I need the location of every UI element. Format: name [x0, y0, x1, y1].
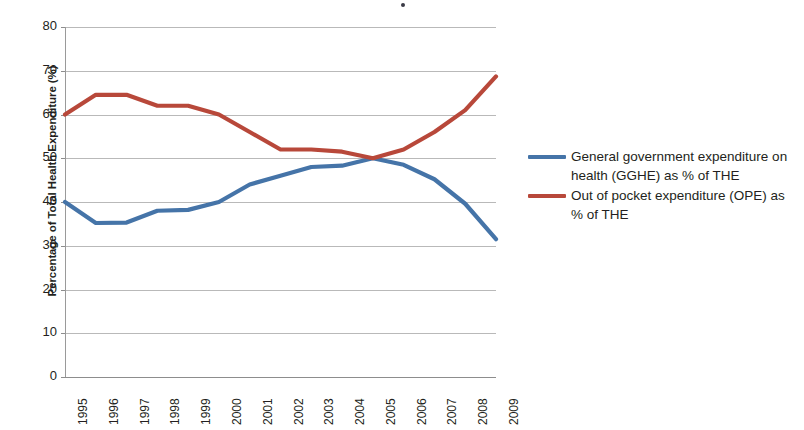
y-tick-label-40: 40 — [17, 193, 57, 208]
y-tick-label-0: 0 — [17, 368, 57, 383]
series-line-ope — [65, 76, 496, 158]
y-axis-tick-labels: 80706050403020100 — [13, 27, 57, 377]
legend-swatch-ope — [528, 194, 566, 198]
y-tick-label-20: 20 — [17, 281, 57, 296]
x-axis-tick-labels: 1995199619971998199920002001200220032004… — [65, 381, 496, 429]
legend-label-ope: Out of pocket expenditure (OPE) as % of … — [571, 187, 798, 224]
x-tick-label-1999: 1999 — [199, 398, 213, 425]
scan-artifact-dot — [401, 3, 405, 7]
y-tick-label-50: 50 — [17, 149, 57, 164]
legend-item-ope[interactable]: Out of pocket expenditure (OPE) as % of … — [528, 187, 798, 224]
x-tick-label-1998: 1998 — [168, 398, 182, 425]
x-tick-label-2007: 2007 — [445, 398, 459, 425]
x-tick-label-2001: 2001 — [261, 398, 275, 425]
x-tick-label-1996: 1996 — [107, 398, 121, 425]
y-tick-label-80: 80 — [17, 18, 57, 33]
legend-swatch-gghe — [528, 155, 566, 159]
x-tick-label-2009: 2009 — [507, 398, 521, 425]
chart-legend: General government expenditure on health… — [528, 148, 798, 226]
y-tick-label-30: 30 — [17, 237, 57, 252]
plot-area — [65, 27, 496, 377]
x-tick-label-2003: 2003 — [322, 398, 336, 425]
y-tick-label-70: 70 — [17, 62, 57, 77]
x-tick-label-2008: 2008 — [476, 398, 490, 425]
chart-figure: Percentage of Total Health Expenditure (… — [0, 0, 804, 430]
x-tick-label-2004: 2004 — [353, 398, 367, 425]
x-tick-label-2005: 2005 — [384, 398, 398, 425]
x-tick-label-1995: 1995 — [76, 398, 90, 425]
legend-item-gghe[interactable]: General government expenditure on health… — [528, 148, 798, 185]
x-tick-label-1997: 1997 — [138, 398, 152, 425]
x-axis-line — [65, 377, 496, 378]
x-tick-label-2002: 2002 — [292, 398, 306, 425]
series-line-gghe — [65, 158, 496, 239]
y-tick-label-60: 60 — [17, 106, 57, 121]
x-tick-label-2006: 2006 — [415, 398, 429, 425]
x-tick-label-2000: 2000 — [230, 398, 244, 425]
series-lines — [65, 27, 496, 377]
y-tick-label-10: 10 — [17, 324, 57, 339]
legend-label-gghe: General government expenditure on health… — [571, 148, 798, 185]
